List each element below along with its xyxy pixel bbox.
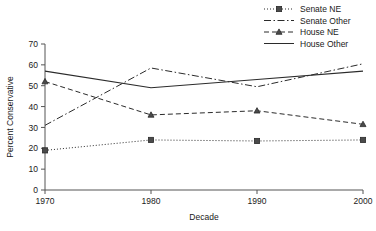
legend-label: House Other xyxy=(300,39,348,49)
line-chart: 0102030405060701970198019902000DecadePer… xyxy=(0,0,376,231)
x-tick-label: 1980 xyxy=(142,196,161,206)
data-point-marker xyxy=(42,78,48,83)
series-line-house-ne xyxy=(45,82,363,125)
y-axis-ticks: 010203040506070 xyxy=(29,39,45,195)
y-tick-label: 50 xyxy=(29,81,39,91)
y-tick-label: 30 xyxy=(29,123,39,133)
x-tick-label: 2000 xyxy=(354,196,373,206)
series-house-other xyxy=(45,71,363,88)
legend-item-house-ne: House NE xyxy=(264,27,339,37)
series-house-ne xyxy=(42,78,366,126)
chart-container: 0102030405060701970198019902000DecadePer… xyxy=(0,0,376,231)
series-line-senate-other xyxy=(45,64,363,126)
data-point-marker xyxy=(254,138,259,143)
series-line-senate-ne xyxy=(45,140,363,150)
legend-item-senate-ne: Senate NE xyxy=(264,4,341,14)
data-point-marker xyxy=(360,137,365,142)
legend-label: House NE xyxy=(300,27,339,37)
series-senate-ne xyxy=(42,137,365,153)
data-point-marker xyxy=(42,148,47,153)
legend-label: Senate NE xyxy=(300,4,341,14)
series-senate-other xyxy=(45,64,363,126)
x-axis-title: Decade xyxy=(189,212,219,222)
data-point-marker xyxy=(254,108,260,113)
y-tick-label: 0 xyxy=(33,185,38,195)
series-line-house-other xyxy=(45,71,363,88)
y-tick-label: 10 xyxy=(29,164,39,174)
y-tick-label: 70 xyxy=(29,39,39,49)
legend: Senate NESenate OtherHouse NEHouse Other xyxy=(264,4,351,49)
y-tick-label: 40 xyxy=(29,102,39,112)
axes-group xyxy=(45,44,363,190)
legend-item-house-other: House Other xyxy=(264,39,348,49)
legend-marker-sample xyxy=(276,6,281,11)
y-axis-title: Percent Conservative xyxy=(5,76,15,158)
legend-item-senate-other: Senate Other xyxy=(264,16,351,26)
x-axis-ticks: 1970198019902000 xyxy=(36,190,373,206)
x-tick-label: 1970 xyxy=(36,196,55,206)
x-tick-label: 1990 xyxy=(248,196,267,206)
y-tick-label: 20 xyxy=(29,143,39,153)
legend-label: Senate Other xyxy=(300,16,351,26)
data-point-marker xyxy=(148,137,153,142)
y-tick-label: 60 xyxy=(29,60,39,70)
